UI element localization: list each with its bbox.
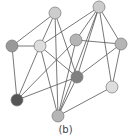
node-J (52, 110, 64, 122)
node-I (11, 94, 23, 106)
edge-A-J (55, 13, 58, 116)
edge-H-J (58, 87, 112, 116)
node-E (70, 34, 82, 46)
graph-figure: (b) (0, 0, 131, 139)
node-F (115, 38, 127, 50)
node-D (34, 40, 46, 52)
node-C (6, 40, 18, 52)
node-H (106, 81, 118, 93)
figure-caption: (b) (0, 124, 131, 135)
node-A (49, 7, 61, 19)
edge-C-I (12, 46, 17, 100)
node-B (93, 1, 105, 13)
edge-E-F (76, 40, 121, 44)
edge-D-J (40, 46, 58, 116)
edge-A-C (12, 13, 55, 46)
edge-B-H (99, 7, 112, 87)
edge-D-I (17, 46, 40, 100)
edge-F-H (112, 44, 121, 87)
network-graph (0, 0, 131, 139)
edge-B-J (58, 7, 99, 116)
node-G (71, 71, 83, 83)
